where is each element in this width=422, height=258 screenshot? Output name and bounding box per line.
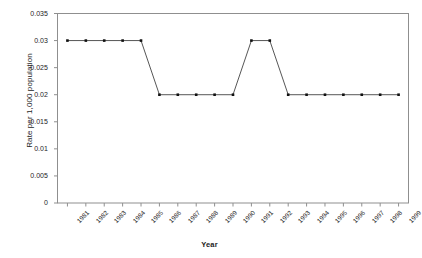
data-point	[250, 39, 253, 42]
data-point	[305, 93, 308, 96]
data-point	[213, 93, 216, 96]
data-point	[195, 93, 198, 96]
data-point	[121, 39, 124, 42]
x-axis-ticks	[67, 203, 398, 207]
data-point	[324, 93, 327, 96]
data-point	[360, 93, 363, 96]
plot-border	[58, 14, 409, 204]
data-point	[66, 39, 69, 42]
data-point	[268, 39, 271, 42]
data-point	[397, 93, 400, 96]
data-point	[232, 93, 235, 96]
data-point	[85, 39, 88, 42]
data-point	[140, 39, 143, 42]
data-point	[342, 93, 345, 96]
y-axis-ticks	[54, 14, 58, 204]
data-point	[158, 93, 161, 96]
x-axis-title: Year	[0, 240, 419, 249]
data-point	[287, 93, 290, 96]
data-point	[177, 93, 180, 96]
data-point	[103, 39, 106, 42]
data-point	[379, 93, 382, 96]
